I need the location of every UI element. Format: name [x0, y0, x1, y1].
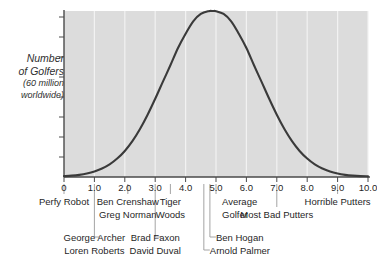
x-tick-label-6: 6.0 — [240, 182, 253, 193]
annotation-ben-crenshaw: Ben Crenshaw — [97, 196, 159, 208]
annotation-woods: Woods — [156, 209, 185, 221]
x-tick-label-3: 3.0 — [149, 182, 162, 193]
y-axis-ticks-group — [59, 17, 64, 157]
x-tick-label-2: 2.0 — [118, 182, 131, 193]
x-tick-label-9: 9.0 — [331, 182, 344, 193]
annotation-ben-hogan: Ben Hogan — [216, 232, 264, 244]
annotation-average: Average — [222, 196, 257, 208]
annotation-most-bad-putters: Most Bad Putters — [240, 209, 313, 221]
x-tick-label-1: 1.0 — [88, 182, 101, 193]
x-tick-label-4: 4.0 — [179, 182, 192, 193]
annotation-greg-norman: Greg Norman — [99, 209, 157, 221]
annotation-david-duval: David Duval — [130, 245, 181, 257]
x-tick-label-5: 5.0 — [209, 182, 222, 193]
x-tick-label-8: 8.0 — [301, 182, 314, 193]
x-tick-label-10: 10.0 — [359, 182, 377, 193]
annotation-brad-faxon: Brad Faxon — [131, 232, 180, 244]
annotation-arnold-palmer: Arnold Palmer — [210, 245, 270, 257]
annotation-perfy-robot: Perfy Robot — [39, 196, 89, 208]
x-tick-label-7: 7.0 — [270, 182, 283, 193]
annotation-george-archer: George Archer — [63, 232, 125, 244]
annotation-tiger: Tiger — [160, 196, 181, 208]
annotation-loren-roberts: Loren Roberts — [64, 245, 124, 257]
x-tick-label-0: 0 — [61, 182, 66, 193]
annotation-horrible-putters: Horrible Putters — [305, 196, 371, 208]
